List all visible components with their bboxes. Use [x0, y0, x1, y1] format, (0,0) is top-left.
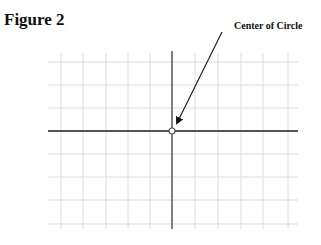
- center-point-icon: [169, 128, 175, 134]
- coordinate-grid: [0, 0, 321, 245]
- callout-arrow-icon: [177, 32, 222, 123]
- grid-lines: [48, 53, 298, 229]
